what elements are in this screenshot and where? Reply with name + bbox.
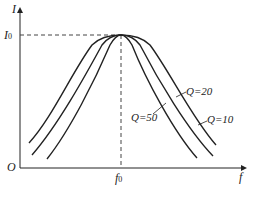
y-axis-label: I — [12, 3, 16, 15]
diagram-canvas — [0, 0, 257, 197]
curve-label-q50: Q=50 — [131, 112, 157, 123]
origin-label: O — [7, 161, 16, 173]
curve-label-q10: Q=10 — [207, 114, 233, 125]
curve-label-q20: Q=20 — [186, 86, 212, 97]
i0-sub: 0 — [8, 32, 12, 41]
curve-q50 — [47, 35, 197, 159]
f0-sub: 0 — [118, 175, 122, 184]
resonance-diagram: I f O I0 f0 Q=50 Q=20 Q=10 — [0, 0, 257, 197]
i0-label: I0 — [4, 29, 12, 41]
x-axis-label: f — [239, 171, 242, 183]
leader-q20 — [176, 92, 186, 97]
f0-label: f0 — [115, 172, 122, 184]
